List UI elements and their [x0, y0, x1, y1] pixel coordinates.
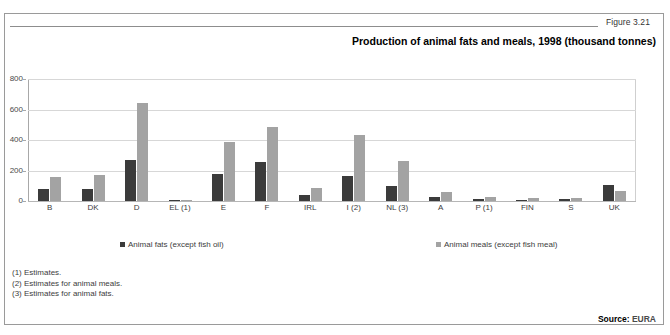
- legend-swatch-icon-meals: [436, 242, 441, 247]
- chart-title: Production of animal fats and meals, 199…: [352, 35, 656, 47]
- y-axis-tick-label: 200: [10, 166, 23, 175]
- bar-animal-fats: [603, 185, 614, 201]
- figure-page: Figure 3.21 Production of animal fats an…: [0, 0, 670, 335]
- y-axis-tick-label: 800: [10, 74, 23, 83]
- footnote-line: (2) Estimates for animal meals.: [12, 279, 312, 290]
- x-axis-tick-label: B: [28, 203, 71, 212]
- bar-group: [603, 79, 626, 201]
- bar-animal-fats: [255, 162, 266, 201]
- bar-animal-meals: [615, 191, 626, 201]
- x-axis-tick-label: NL (3): [375, 203, 418, 212]
- x-axis-tick-label: D: [115, 203, 158, 212]
- bar-group: [38, 79, 61, 201]
- footnotes: (1) Estimates.(2) Estimates for animal m…: [12, 268, 312, 300]
- bar-animal-meals: [224, 142, 235, 201]
- legend-label-animal-fats: Animal fats (except fish oil): [128, 240, 224, 249]
- legend-swatch-icon-fats: [120, 242, 125, 247]
- bar-animal-fats: [82, 189, 93, 201]
- bar-group: [429, 79, 452, 201]
- figure-header: Figure 3.21: [10, 17, 650, 29]
- bar-animal-fats: [342, 176, 353, 201]
- header-divider: [10, 26, 598, 27]
- bar-group: [82, 79, 105, 201]
- footnote-line: (3) Estimates for animal fats.: [12, 289, 312, 300]
- x-axis-labels: BDKDEL (1)EFIRLI (2)NL (3)AP (1)FINSUK: [28, 203, 636, 217]
- bar-animal-fats: [125, 160, 136, 201]
- bar-group: [342, 79, 365, 201]
- bar-animal-meals: [311, 188, 322, 201]
- y-axis: 0200400600800: [0, 79, 26, 209]
- bar-group: [125, 79, 148, 201]
- x-axis-line: [28, 201, 636, 202]
- bars-layer: [28, 79, 636, 201]
- bar-group: [255, 79, 278, 201]
- bar-group: [299, 79, 322, 201]
- legend-item-animal-fats: Animal fats (except fish oil): [120, 240, 224, 249]
- bar-group: [516, 79, 539, 201]
- legend-item-animal-meals: Animal meals (except fish meal): [436, 240, 557, 249]
- bar-group: [169, 79, 192, 201]
- y-axis-tick-label: 600: [10, 105, 23, 114]
- bar-animal-meals: [50, 177, 61, 201]
- x-axis-tick-label: UK: [593, 203, 636, 212]
- x-axis-tick-label: I (2): [332, 203, 375, 212]
- x-axis-tick-label: E: [202, 203, 245, 212]
- bar-animal-meals: [94, 175, 105, 201]
- footnote-line: (1) Estimates.: [12, 268, 312, 279]
- bar-group: [473, 79, 496, 201]
- chart-legend: Animal fats (except fish oil) Animal mea…: [10, 240, 658, 254]
- x-axis-tick-label: EL (1): [158, 203, 201, 212]
- bar-animal-meals: [398, 161, 409, 201]
- bar-animal-meals: [354, 135, 365, 201]
- bar-animal-meals: [267, 127, 278, 201]
- x-axis-tick-label: FIN: [506, 203, 549, 212]
- y-axis-tick-mark: [23, 201, 26, 202]
- y-axis-tick-mark: [23, 171, 26, 172]
- source-note: Source: EURA: [598, 314, 656, 324]
- figure-number: Figure 3.21: [606, 17, 650, 27]
- bar-animal-meals: [137, 103, 148, 201]
- x-axis-tick-label: P (1): [462, 203, 505, 212]
- y-axis-tick-mark: [23, 79, 26, 80]
- x-axis-tick-label: DK: [71, 203, 114, 212]
- x-axis-tick-label: S: [549, 203, 592, 212]
- bar-animal-meals: [441, 192, 452, 201]
- y-axis-tick-mark: [23, 140, 26, 141]
- source-label: Source:: [598, 314, 630, 324]
- bar-animal-fats: [386, 186, 397, 201]
- bar-group: [559, 79, 582, 201]
- source-value: EURA: [632, 314, 656, 324]
- bar-group: [386, 79, 409, 201]
- y-axis-tick-mark: [23, 110, 26, 111]
- bar-group: [212, 79, 235, 201]
- bar-animal-fats: [212, 174, 223, 201]
- x-axis-tick-label: IRL: [289, 203, 332, 212]
- plot-wrap: [28, 79, 636, 201]
- x-axis-tick-label: F: [245, 203, 288, 212]
- y-axis-tick-label: 400: [10, 135, 23, 144]
- bar-animal-fats: [38, 189, 49, 201]
- x-axis-tick-label: A: [419, 203, 462, 212]
- legend-label-animal-meals: Animal meals (except fish meal): [444, 240, 557, 249]
